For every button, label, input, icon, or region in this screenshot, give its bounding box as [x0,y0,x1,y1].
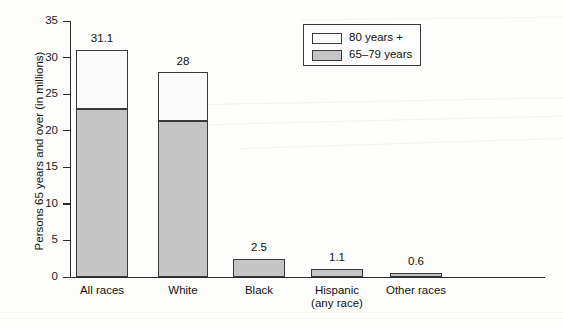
x-axis-label-line: All races [80,284,124,297]
scan-artifact [200,116,563,126]
bar-group: 2.5 [233,259,285,277]
x-axis-category-label: Hispanic(any race) [311,284,363,310]
y-axis-tick-label: 0 [28,271,58,283]
y-axis-tick-label: 30 [28,52,58,64]
bar-segment-65-79 [76,109,128,277]
scan-artifact [0,312,563,313]
y-axis-tick-label: 25 [28,88,58,100]
x-axis-category-label: Black [245,284,273,297]
x-axis-label-line: White [168,284,197,297]
scan-artifact [170,97,563,106]
bar-group: 0.6 [390,273,442,277]
legend-item-65-79: 65–79 years [312,48,412,62]
legend-swatch-65-79 [312,50,342,61]
bar-segment-65-79 [233,259,285,277]
y-axis-tick-label: 10 [28,198,58,210]
legend-swatch-80-plus [312,33,342,44]
scan-artifact [300,17,563,21]
scan-artifact [240,138,563,149]
bar-value-label: 2.5 [251,242,267,254]
bar-group: 1.1 [311,269,363,277]
y-axis-tick-label: 15 [28,161,58,173]
y-axis-line [70,21,71,278]
x-axis-category-label: Other races [386,284,446,297]
x-axis-label-line: Other races [386,284,446,297]
legend-item-80-plus: 80 years + [312,31,403,45]
bar-segment-65-79 [158,121,208,277]
bar-value-label: 31.1 [91,33,113,45]
bar-segment-65-79 [390,273,442,277]
scan-artifact [0,318,563,319]
legend-label-65-79: 65–79 years [349,49,412,61]
x-axis-category-label: White [168,284,197,297]
bar-segment-65-79 [311,269,363,277]
x-axis-line [70,277,545,278]
y-axis-tick-label: 20 [28,125,58,137]
bar-value-label: 0.6 [408,256,424,268]
bar-value-label: 28 [177,56,190,68]
bar-group: 28 [158,72,208,277]
bar-segment-80-plus [76,50,128,109]
stacked-bar-chart: Persons 65 years and over (in millions) … [0,0,563,327]
chart-legend: 80 years + 65–79 years [303,24,421,66]
y-axis-tick-label: 35 [28,15,58,27]
bar-value-label: 1.1 [329,252,345,264]
x-axis-label-line: (any race) [311,297,363,310]
y-axis-tick-label: 5 [28,234,58,246]
x-axis-category-label: All races [80,284,124,297]
x-axis-label-line: Hispanic [311,284,363,297]
x-axis-label-line: Black [245,284,273,297]
bar-group: 31.1 [76,50,128,277]
legend-label-80-plus: 80 years + [349,32,403,44]
bar-segment-80-plus [158,72,208,121]
